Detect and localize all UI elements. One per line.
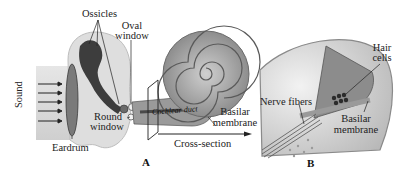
arrowhead (244, 132, 252, 137)
label-eardrum: Eardrum (52, 142, 89, 153)
label-ossicles: Ossicles (82, 8, 117, 19)
eardrum (66, 64, 78, 136)
label-oval-window-2: window (113, 30, 151, 41)
label-round-window-2: window (86, 121, 128, 132)
label-sound: Sound (13, 81, 24, 108)
label-cross-section: Cross-section (174, 138, 231, 149)
label-hair-cells-2: cells (369, 52, 395, 63)
label-basilar-membrane-b-1: Basilar (336, 113, 376, 124)
panel-label-b: B (307, 157, 314, 169)
panel-label-a: A (142, 156, 150, 168)
ear-diagram: Sound Ossicles Oval window Round window … (0, 0, 414, 177)
label-basilar-membrane-a-2: membrane (210, 117, 260, 128)
label-basilar-membrane-a-1: Basilar (214, 106, 256, 117)
label-basilar-membrane-b-2: membrane (330, 124, 382, 135)
label-nerve-fibers: Nerve fibers (260, 96, 312, 107)
